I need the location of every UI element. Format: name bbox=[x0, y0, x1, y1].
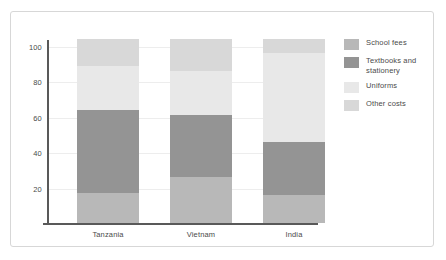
y-tick-label-80: 80 bbox=[33, 78, 42, 87]
legend-item-school-fees[interactable]: School fees bbox=[344, 38, 426, 50]
bar-segment-tanzania-textbooks-and-stationery[interactable] bbox=[77, 110, 139, 193]
bar-segment-vietnam-uniforms[interactable] bbox=[170, 71, 232, 115]
legend-label: School fees bbox=[366, 38, 426, 48]
x-tick-label-tanzania: Tanzania bbox=[77, 230, 139, 239]
bar-segment-india-other-costs[interactable] bbox=[263, 39, 325, 53]
bar-segment-vietnam-other-costs[interactable] bbox=[170, 39, 232, 71]
bar-segment-vietnam-textbooks-and-stationery[interactable] bbox=[170, 115, 232, 177]
x-tick-label-vietnam: Vietnam bbox=[170, 230, 232, 239]
legend-swatch-other-costs bbox=[344, 100, 359, 111]
plot-area: 20406080100 TanzaniaVietnamIndia bbox=[47, 32, 318, 224]
y-tick-label-100: 100 bbox=[29, 43, 42, 52]
legend-label: Other costs bbox=[366, 99, 426, 109]
bar-groups bbox=[49, 32, 318, 224]
x-tick-label-india: India bbox=[263, 230, 325, 239]
legend-label: Uniforms bbox=[366, 81, 426, 91]
bar-segment-india-textbooks-and-stationery[interactable] bbox=[263, 142, 325, 195]
bar-group-vietnam[interactable] bbox=[170, 39, 232, 223]
y-tick-label-20: 20 bbox=[33, 184, 42, 193]
y-tick-label-60: 60 bbox=[33, 113, 42, 122]
bar-segment-india-school-fees[interactable] bbox=[263, 195, 325, 223]
y-tick-label-40: 40 bbox=[33, 149, 42, 158]
legend-item-other-costs[interactable]: Other costs bbox=[344, 99, 426, 111]
bar-group-india[interactable] bbox=[263, 39, 325, 223]
legend-swatch-textbooks bbox=[344, 57, 359, 68]
bar-segment-vietnam-school-fees[interactable] bbox=[170, 177, 232, 223]
bar-segment-india-uniforms[interactable] bbox=[263, 53, 325, 141]
chart-legend: School feesTextbooks and stationeryUnifo… bbox=[344, 38, 426, 117]
bar-segment-tanzania-other-costs[interactable] bbox=[77, 39, 139, 66]
legend-item-uniforms[interactable]: Uniforms bbox=[344, 81, 426, 93]
bar-segment-tanzania-uniforms[interactable] bbox=[77, 66, 139, 110]
legend-swatch-school-fees bbox=[344, 39, 359, 50]
legend-label: Textbooks and stationery bbox=[366, 56, 426, 75]
chart-figure-frame: 20406080100 TanzaniaVietnamIndia School … bbox=[10, 11, 434, 247]
bar-group-tanzania[interactable] bbox=[77, 39, 139, 223]
bar-segment-tanzania-school-fees[interactable] bbox=[77, 193, 139, 223]
legend-swatch-uniforms bbox=[344, 82, 359, 93]
legend-item-textbooks-and-stationery[interactable]: Textbooks and stationery bbox=[344, 56, 426, 75]
